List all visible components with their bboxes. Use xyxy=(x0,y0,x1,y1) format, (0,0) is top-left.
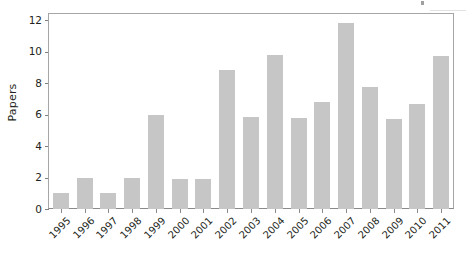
bar-2003[interactable] xyxy=(243,117,259,209)
y-axis-tick-label: 2 xyxy=(22,172,42,182)
y-axis-tick-label: 10 xyxy=(22,46,42,56)
x-axis-tick-label-2007: 2007 xyxy=(329,215,358,244)
y-axis-tick-label: 0 xyxy=(22,204,42,214)
x-axis-tick-mark xyxy=(275,209,276,213)
x-axis-tick-label-1997: 1997 xyxy=(91,215,120,244)
bar-2000[interactable] xyxy=(172,179,188,209)
x-axis-tick-label-1996: 1996 xyxy=(67,215,96,244)
bar-2004[interactable] xyxy=(267,55,283,209)
x-axis-tick-mark xyxy=(227,209,228,213)
x-axis-tick-mark xyxy=(180,209,181,213)
bar-1998[interactable] xyxy=(124,178,140,209)
x-axis-tick-label-2005: 2005 xyxy=(281,215,310,244)
scan-artifact-smudge-icon xyxy=(430,10,466,11)
x-axis-tick-mark xyxy=(203,209,204,213)
bar-2005[interactable] xyxy=(291,118,307,209)
x-axis-tick-label-2009: 2009 xyxy=(376,215,405,244)
x-axis-tick-mark xyxy=(108,209,109,213)
x-axis-tick-label-1998: 1998 xyxy=(115,215,144,244)
x-axis-tick-mark xyxy=(85,209,86,213)
x-axis-tick-label-2002: 2002 xyxy=(210,215,239,244)
x-axis-tick-label-2010: 2010 xyxy=(400,215,429,244)
bar-1995[interactable] xyxy=(53,193,69,209)
x-axis-tick-mark xyxy=(299,209,300,213)
x-axis-tick-label-2006: 2006 xyxy=(305,215,334,244)
y-axis-tick-label: 8 xyxy=(22,78,42,88)
bar-series-group xyxy=(49,14,453,209)
bar-1997[interactable] xyxy=(100,193,116,209)
bar-2011[interactable] xyxy=(433,56,449,209)
scan-artifact-tick-icon xyxy=(421,1,424,5)
bar-2007[interactable] xyxy=(338,23,354,209)
bar-1996[interactable] xyxy=(77,178,93,209)
x-axis-tick-mark xyxy=(394,209,395,213)
y-axis-tick-label: 12 xyxy=(22,15,42,25)
x-axis-tick-mark xyxy=(370,209,371,213)
x-axis-tick-mark xyxy=(346,209,347,213)
x-axis-tick-label-2011: 2011 xyxy=(424,215,453,244)
x-axis-tick-label-2004: 2004 xyxy=(258,215,287,244)
x-axis-tick-mark xyxy=(322,209,323,213)
x-axis-tick-mark xyxy=(61,209,62,213)
x-axis-tick-mark xyxy=(441,209,442,213)
bar-2009[interactable] xyxy=(386,119,402,209)
y-axis-tick-label-group: 024681012 xyxy=(22,0,42,255)
x-axis-tick-mark xyxy=(251,209,252,213)
y-axis-title: Papers xyxy=(6,73,19,133)
bar-chart-figure: Papers 024681012 19951996199719981999200… xyxy=(0,0,469,255)
bar-2001[interactable] xyxy=(195,179,211,209)
x-axis-tick-mark xyxy=(417,209,418,213)
x-axis-tick-label-2000: 2000 xyxy=(162,215,191,244)
bar-2002[interactable] xyxy=(219,70,235,209)
x-axis-tick-label-1999: 1999 xyxy=(139,215,168,244)
x-axis-tick-label-2003: 2003 xyxy=(234,215,263,244)
x-axis-tick-label-2001: 2001 xyxy=(186,215,215,244)
x-axis-tick-label-1995: 1995 xyxy=(44,215,73,244)
x-axis-tick-mark xyxy=(132,209,133,213)
y-axis-tick-label: 6 xyxy=(22,109,42,119)
y-axis-tick-label: 4 xyxy=(22,141,42,151)
bar-2010[interactable] xyxy=(409,104,425,209)
x-axis-tick-label-2008: 2008 xyxy=(353,215,382,244)
bar-2006[interactable] xyxy=(314,102,330,209)
x-axis-tick-mark xyxy=(156,209,157,213)
bar-2008[interactable] xyxy=(362,87,378,209)
x-axis-tick-group: 1995199619971998199920002001200220032004… xyxy=(49,209,453,255)
bar-1999[interactable] xyxy=(148,115,164,209)
